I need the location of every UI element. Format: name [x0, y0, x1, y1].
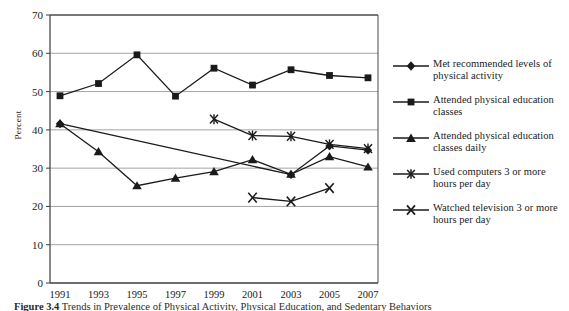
svg-text:60: 60 [32, 47, 44, 59]
legend-item: Attended physical education classes [392, 94, 569, 122]
svg-text:1991: 1991 [50, 289, 71, 300]
svg-text:2001: 2001 [242, 289, 263, 300]
legend-item-label: Attended physical education classes [430, 94, 569, 118]
cross-marker-icon [392, 203, 430, 217]
svg-text:40: 40 [32, 124, 44, 136]
figure-caption-number: Figure 3.4 [14, 301, 59, 311]
svg-text:2005: 2005 [319, 289, 340, 300]
legend-item-label: Met recommended levels of physical activ… [430, 58, 569, 82]
legend-item-label: Attended physical education classes dail… [430, 130, 569, 154]
svg-text:2003: 2003 [281, 289, 302, 300]
svg-text:1997: 1997 [165, 289, 186, 300]
legend-item: Watched television 3 or more hours per d… [392, 202, 569, 230]
legend-item: Met recommended levels of physical activ… [392, 58, 569, 86]
square-marker-icon [392, 95, 430, 109]
svg-text:20: 20 [32, 200, 44, 212]
figure-chart: Percent 01020304050607019911993199519971… [0, 0, 569, 311]
figure-caption: Figure 3.4 Trends in Prevalence of Physi… [14, 301, 569, 311]
svg-text:30: 30 [32, 162, 44, 174]
legend-item-label: Watched television 3 or more hours per d… [430, 202, 569, 226]
chart-legend: Met recommended levels of physical activ… [392, 58, 569, 238]
svg-text:1995: 1995 [127, 289, 148, 300]
asterisk-marker-icon [392, 167, 430, 181]
svg-text:0: 0 [38, 277, 44, 289]
legend-item-label: Used computers 3 or more hours per day [430, 166, 569, 190]
svg-text:70: 70 [32, 9, 44, 21]
triangle-marker-icon [392, 131, 430, 145]
svg-text:1993: 1993 [88, 289, 109, 300]
svg-text:1999: 1999 [204, 289, 225, 300]
svg-text:50: 50 [32, 86, 44, 98]
diamond-marker-icon [392, 59, 430, 73]
figure-caption-text: Trends in Prevalence of Physical Activit… [62, 301, 432, 311]
legend-item: Used computers 3 or more hours per day [392, 166, 569, 194]
svg-text:2007: 2007 [358, 289, 379, 300]
svg-text:10: 10 [32, 239, 44, 251]
legend-item: Attended physical education classes dail… [392, 130, 569, 158]
